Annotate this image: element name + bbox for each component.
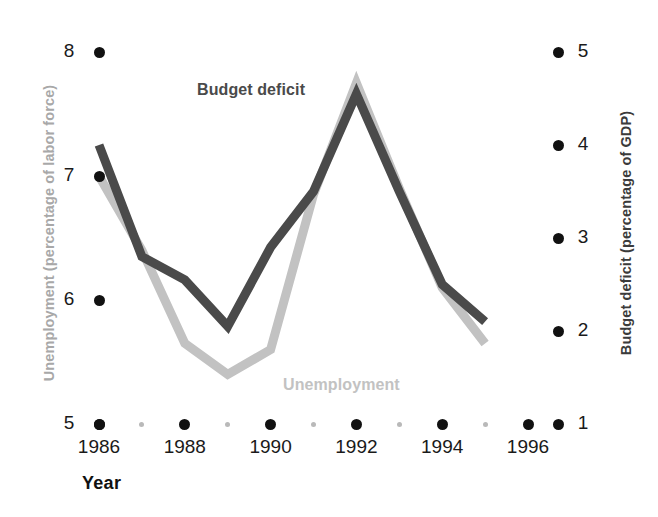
right-tick-dot <box>553 47 564 58</box>
x-tick-dot-major <box>265 419 276 430</box>
left-tick-label: 8 <box>56 40 82 62</box>
x-tick-label: 1986 <box>64 436 134 458</box>
right-tick-dot <box>553 326 564 337</box>
right-tick-label: 4 <box>570 133 596 155</box>
right-tick-label: 3 <box>570 226 596 248</box>
right-tick-label: 2 <box>570 319 596 341</box>
x-tick-dot-minor <box>225 422 230 427</box>
right-tick-label: 5 <box>570 40 596 62</box>
right-tick-dot <box>553 419 564 430</box>
right-tick-dot <box>553 140 564 151</box>
left-tick-label: 5 <box>56 412 82 434</box>
unemployment-line <box>99 83 485 374</box>
left-tick-label: 7 <box>56 164 82 186</box>
right-tick-dot <box>553 233 564 244</box>
x-tick-dot-major <box>94 419 105 430</box>
x-tick-dot-minor <box>139 422 144 427</box>
x-tick-label: 1990 <box>236 436 306 458</box>
x-tick-label: 1992 <box>321 436 391 458</box>
x-tick-dot-major <box>437 419 448 430</box>
x-tick-label: 1988 <box>150 436 220 458</box>
x-axis-title: Year <box>82 473 121 494</box>
x-tick-dot-major <box>179 419 190 430</box>
x-tick-label: 1996 <box>493 436 563 458</box>
x-tick-dot-major <box>351 419 362 430</box>
right-tick-label: 1 <box>570 412 596 434</box>
chart-container: Unemployment (percentage of labor force)… <box>0 0 658 517</box>
budget-deficit-series-label: Budget deficit <box>197 81 305 99</box>
unemployment-series-label: Unemployment <box>283 376 400 394</box>
x-tick-dot-minor <box>397 422 402 427</box>
left-tick-dot <box>94 171 105 182</box>
x-tick-label: 1994 <box>407 436 477 458</box>
x-tick-dot-minor <box>311 422 316 427</box>
x-tick-dot-minor <box>483 422 488 427</box>
x-tick-dot-major <box>523 419 534 430</box>
left-tick-dot <box>94 47 105 58</box>
left-tick-label: 6 <box>56 288 82 310</box>
left-tick-dot <box>94 295 105 306</box>
